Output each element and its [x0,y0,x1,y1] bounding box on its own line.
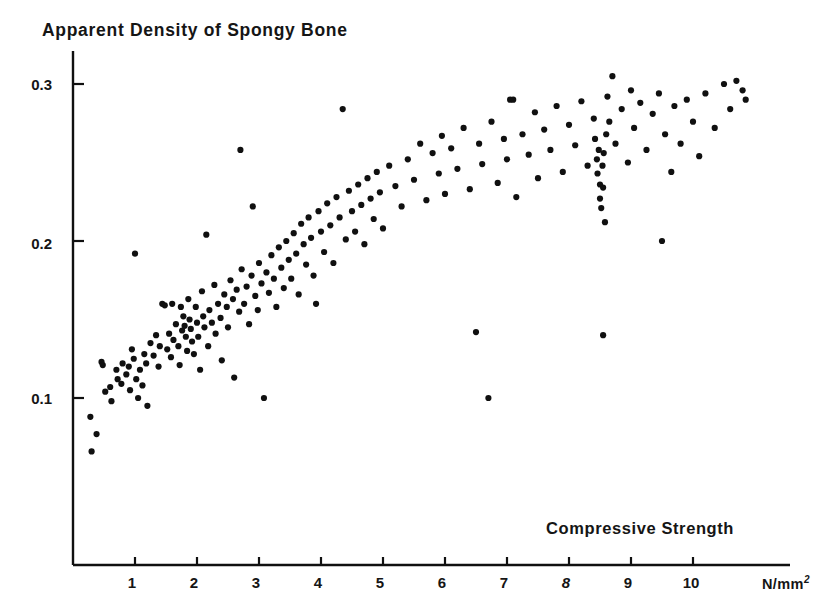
data-point [194,320,200,326]
data-point [612,141,618,147]
data-point [485,395,491,401]
data-point [349,208,355,214]
data-point [597,196,603,202]
data-point [203,232,209,238]
data-point [234,287,240,293]
data-point [286,257,292,263]
data-point [315,208,321,214]
data-point [554,103,560,109]
data-point [288,276,294,282]
data-point [147,340,153,346]
data-point [637,100,643,106]
data-point [184,348,190,354]
data-point [278,265,284,271]
data-point [197,367,203,373]
data-point [108,398,114,404]
data-point [227,277,233,283]
data-point [236,309,242,315]
data-point [461,125,467,131]
scatter-plot-figure: Apparent Density of Spongy Bone Compress… [0,0,838,616]
data-point [310,272,316,278]
data-point [213,331,219,337]
data-point [321,249,327,255]
data-point [727,106,733,112]
data-point [246,321,252,327]
data-point [368,196,374,202]
data-point [217,315,223,321]
data-point [702,90,708,96]
data-point [291,230,297,236]
data-point [144,403,150,409]
data-point [169,301,175,307]
data-point [541,126,547,132]
plot-canvas [0,0,838,616]
data-point [211,282,217,288]
data-point [592,136,598,142]
data-point [600,185,606,191]
data-point [439,133,445,139]
data-point [591,115,597,121]
data-point [430,150,436,156]
data-point [601,150,607,156]
data-point [193,304,199,310]
data-point [143,360,149,366]
data-point [170,337,176,343]
data-point [650,111,656,117]
data-point [231,374,237,380]
data-point [183,334,189,340]
data-point [201,324,207,330]
data-point [126,364,132,370]
data-point [609,73,615,79]
data-point [380,225,386,231]
data-point [252,293,258,299]
data-point [195,334,201,340]
data-point [526,152,532,158]
data-point [178,304,184,310]
data-point [684,97,690,103]
data-point [333,194,339,200]
data-point [113,367,119,373]
data-point [129,346,135,352]
data-point [206,307,212,313]
data-point [656,90,662,96]
data-point [308,235,314,241]
data-point [151,353,157,359]
tick-marks [73,84,693,565]
data-point [690,119,696,125]
data-point [221,291,227,297]
data-point [442,191,448,197]
data-point [306,214,312,220]
data-point [594,156,600,162]
data-point [239,266,245,272]
data-point [721,81,727,87]
data-point [261,395,267,401]
data-point [355,181,361,187]
data-point [164,346,170,352]
data-point [346,188,352,194]
data-point [473,329,479,335]
data-point [157,343,163,349]
data-point [186,316,192,322]
data-point [659,238,665,244]
data-point [224,304,230,310]
data-point [324,200,330,206]
data-point [200,313,206,319]
data-point [135,395,141,401]
data-point [600,332,606,338]
data-point [501,136,507,142]
data-point [625,159,631,165]
data-point [133,376,139,382]
data-point [205,343,211,349]
data-point [740,87,746,93]
data-point [604,93,610,99]
data-point [560,169,566,175]
data-point [337,214,343,220]
data-point [417,141,423,147]
data-point [241,301,247,307]
data-point [162,302,168,308]
data-point [340,106,346,112]
data-point [298,221,304,227]
data-point [255,307,261,313]
data-point [532,109,538,115]
data-point [712,125,718,131]
